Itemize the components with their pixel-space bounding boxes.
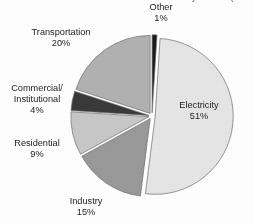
slice-label-transportation-pct: 20%: [17, 38, 105, 49]
slice-label-industry-pct: 15%: [50, 207, 122, 218]
slice-label-commercial-institutional: Commercial/ Institutional 4%: [1, 83, 73, 116]
slice-label-industry: Industry 15%: [50, 196, 122, 218]
slice-label-commercial-line1: Commercial/: [11, 83, 63, 93]
slice-label-commercial-pct: 4%: [1, 105, 73, 116]
slice-label-other: Other 1%: [131, 2, 191, 24]
slice-label-other-pct: 1%: [131, 13, 191, 24]
slice-label-electricity-pct: 51%: [166, 111, 232, 122]
pie-chart-figure: Greenhouse Gas Emissions by Sector (Carb…: [0, 0, 253, 223]
slice-label-electricity-name: Electricity: [179, 100, 218, 110]
slice-label-industry-name: Industry: [70, 196, 103, 206]
slice-label-residential-name: Residential: [14, 138, 59, 148]
slice-label-residential: Residential 9%: [1, 138, 73, 160]
slice-label-other-name: Other: [150, 2, 173, 12]
slice-label-transportation-name: Transportation: [32, 27, 91, 37]
slice-label-electricity: Electricity 51%: [166, 100, 232, 122]
slice-label-residential-pct: 9%: [1, 149, 73, 160]
slice-label-commercial-line2: Institutional: [1, 94, 73, 105]
slice-label-transportation: Transportation 20%: [17, 27, 105, 49]
